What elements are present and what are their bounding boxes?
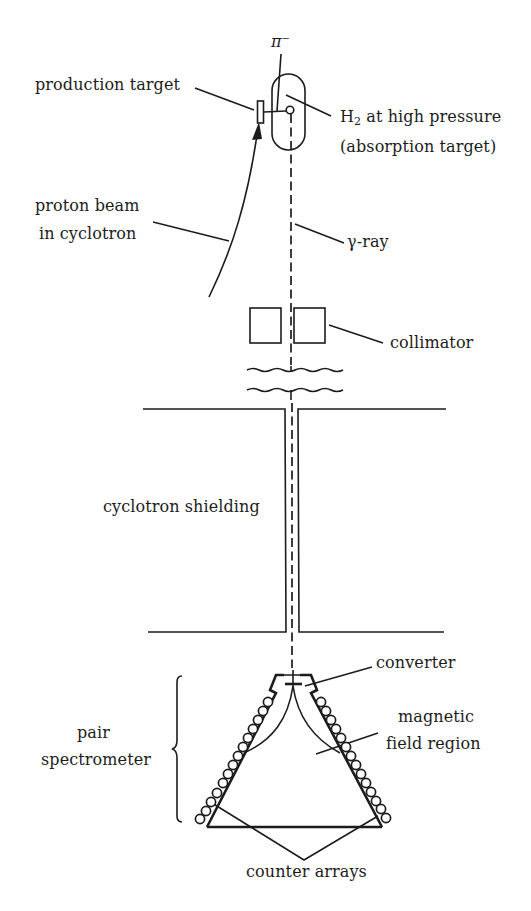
collimator-block-right (294, 308, 325, 343)
production-target-label: production target (35, 75, 180, 95)
pion-path (264, 111, 286, 112)
gamma-ray-leader (295, 224, 344, 243)
gamma-ray-label: γ-ray (347, 232, 389, 252)
proton-beam-label-line2: in cyclotron (39, 224, 136, 244)
magnetic-field-label-line2: field region (386, 734, 481, 754)
h2-symbol: H (340, 107, 354, 126)
magnetic-field-label-line1: magnetic (398, 707, 474, 727)
break-mark-lower (247, 389, 343, 392)
pion-track (277, 54, 281, 111)
collimator-leader (329, 325, 383, 343)
counter-arrays-leader (212, 803, 378, 860)
counter-array-left (195, 697, 272, 823)
pair-spectrometer-label-line1: pair (77, 723, 110, 743)
shielding-right-wall (298, 409, 446, 632)
proton-beam-label-line1: proton beam (35, 196, 140, 216)
absorption-target-label: (absorption target) (340, 137, 496, 157)
break-mark-upper (247, 369, 343, 372)
pair-spectrometer-brace (172, 676, 182, 822)
magnet-outline-right (300, 675, 382, 827)
pion-stop-point (286, 106, 294, 114)
h2-text: at high pressure (361, 107, 501, 126)
counter-arrays-label: counter arrays (246, 862, 367, 882)
proton-beam-arrowhead (252, 122, 262, 140)
proton-beam-path (209, 128, 258, 297)
converter-label: converter (376, 653, 456, 673)
apparatus-diagram: π⁻ production target H2 at high pressure… (0, 0, 531, 911)
collimator-label: collimator (390, 333, 473, 353)
collimator-block-left (250, 308, 281, 343)
proton-beam-leader (153, 222, 229, 241)
pair-spectrometer-label-line2: spectrometer (41, 750, 151, 770)
counter-array-right (316, 697, 390, 822)
cyclotron-shielding-label: cyclotron shielding (103, 497, 260, 517)
production-target (258, 101, 264, 123)
h2-label: H2 at high pressure (340, 107, 501, 127)
converter-leader (305, 667, 372, 686)
production-target-leader (195, 88, 254, 110)
pion-label: π⁻ (271, 32, 290, 52)
shielding-left-wall (143, 409, 286, 632)
